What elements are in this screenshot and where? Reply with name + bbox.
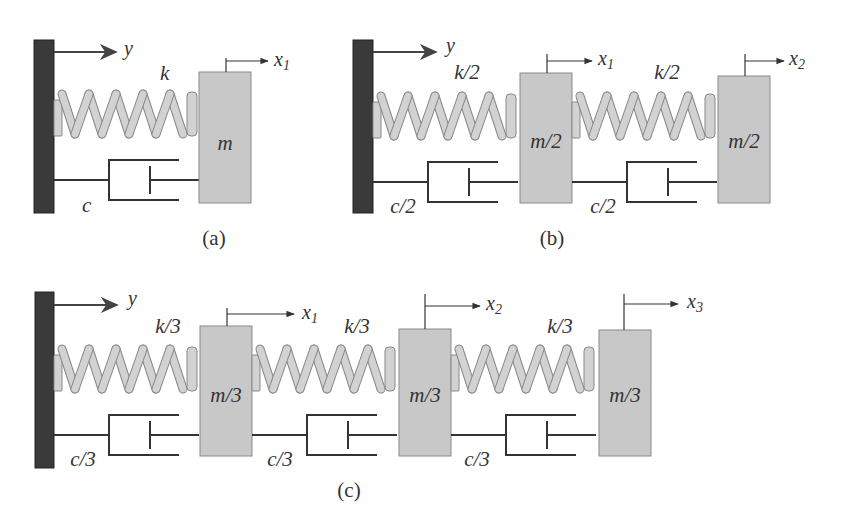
spring-3-label: k/3 — [547, 314, 573, 338]
input-label: y — [126, 287, 137, 310]
damper-3-label: c/3 — [464, 447, 490, 471]
mass-3-label: m/3 — [609, 383, 641, 407]
spring-1-label: k/2 — [454, 60, 480, 84]
displacement-2-label: x2 — [788, 47, 805, 72]
displacement-1-label: x1 — [301, 301, 318, 326]
mass-1-label: m/2 — [530, 129, 562, 153]
spring-1 — [54, 347, 197, 391]
input-label: y — [122, 37, 133, 60]
displacement-label: x1 — [273, 48, 290, 73]
panel-caption: (b) — [540, 226, 565, 250]
spring — [54, 92, 197, 136]
spring-1 — [373, 94, 516, 138]
mass-label: m — [217, 131, 232, 155]
damper-2-label: c/2 — [590, 194, 616, 218]
fixed-wall — [35, 292, 54, 468]
mass-spring-damper-figure: y k c m x1 (a) y k/2 c/2 m/2 x1 k/2 c/2 … — [0, 0, 852, 525]
spring-2-label: k/3 — [344, 314, 370, 338]
mass-2-label: m/2 — [728, 129, 760, 153]
spring-1-label: k/3 — [155, 314, 181, 338]
damper-1-label: c/3 — [70, 447, 96, 471]
panel-caption: (a) — [202, 226, 225, 250]
spring-2 — [572, 94, 715, 138]
spring-label: k — [160, 61, 170, 85]
damper-2-label: c/3 — [267, 447, 293, 471]
spring-2 — [252, 347, 395, 391]
damper-1-label: c/2 — [390, 194, 416, 218]
fixed-wall — [353, 40, 373, 213]
damper-label: c — [82, 193, 92, 217]
displacement-2-label: x2 — [485, 292, 502, 317]
panel-b: y k/2 c/2 m/2 x1 k/2 c/2 m/2 x2 (b) — [353, 34, 805, 250]
mass-1-label: m/3 — [210, 383, 242, 407]
spring-2-label: k/2 — [654, 60, 680, 84]
panel-caption: (c) — [337, 478, 360, 502]
damper — [54, 160, 199, 200]
panel-c: y k/3 c/3 m/3 x1 k/3 c/3 m/3 x2 k/3 c/3 … — [35, 287, 703, 502]
displacement-1-label: x1 — [597, 47, 614, 72]
mass-2-label: m/3 — [409, 383, 441, 407]
displacement-3-label: x3 — [686, 290, 703, 315]
input-label: y — [444, 34, 455, 57]
fixed-wall — [34, 40, 54, 213]
spring-3 — [451, 347, 594, 391]
panel-a: y k c m x1 (a) — [34, 37, 290, 250]
